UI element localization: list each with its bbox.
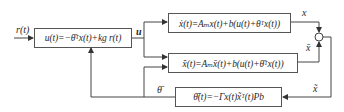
controller-equation: u(t)=−θ̄ᵀx(t)+kg r(t) (45, 33, 121, 43)
theta-to-model-arrow (144, 67, 167, 97)
reference-model-block: x̄̇(t)=Aₘx̄(t)+b(u(t)+θ̄ᵀx(t)) (168, 53, 298, 73)
summing-junction (315, 33, 323, 41)
input-label: r(t) (16, 25, 29, 35)
x-to-sum-arrow (291, 22, 319, 32)
error-label: x̃ (313, 84, 317, 94)
theta-estimate-label: θ̄ (157, 85, 162, 95)
plant-equation: ẋ(t)=Aₘx(t)+b(u(t)+θᵀx(t)) (179, 18, 280, 29)
controller-block: u(t)=−θ̄ᵀx(t)+kg r(t) (34, 28, 132, 48)
u-to-plant-arrow (144, 22, 167, 38)
theta-to-controller-arrow (91, 48, 175, 97)
adaptive-law-equation: θ̄̇(t)=−Γx(t)x̃ᵀ(t)Pb (193, 92, 264, 102)
control-signal-label: u (136, 27, 142, 37)
reference-model-equation: x̄̇(t)=Aₘx̄(t)+b(u(t)+θ̄ᵀx(t)) (183, 58, 284, 69)
model-output-label: x̄ (306, 43, 310, 53)
plant-block: ẋ(t)=Aₘx(t)+b(u(t)+θᵀx(t)) (168, 13, 291, 33)
u-to-model-arrow (144, 38, 167, 57)
adaptive-law-block: θ̄̇(t)=−Γx(t)x̃ᵀ(t)Pb (175, 87, 282, 107)
plant-output-label: x (302, 8, 306, 18)
